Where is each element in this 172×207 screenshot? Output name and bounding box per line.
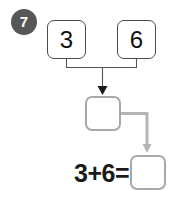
down-arrowhead-icon [98, 86, 108, 95]
worksheet-problem: 7 3 6 3+6= [0, 0, 172, 207]
problem-number-badge: 7 [11, 9, 37, 35]
equation-text: 3+6= [47, 156, 129, 190]
second-addend-box: 6 [117, 20, 156, 59]
sum-answer-box[interactable] [85, 96, 121, 131]
transfer-connector [121, 114, 147, 146]
bracket-connector [67, 59, 137, 88]
equation-answer-box[interactable] [130, 155, 166, 190]
transfer-arrowhead-icon [143, 144, 152, 153]
first-addend-box: 3 [47, 20, 86, 59]
